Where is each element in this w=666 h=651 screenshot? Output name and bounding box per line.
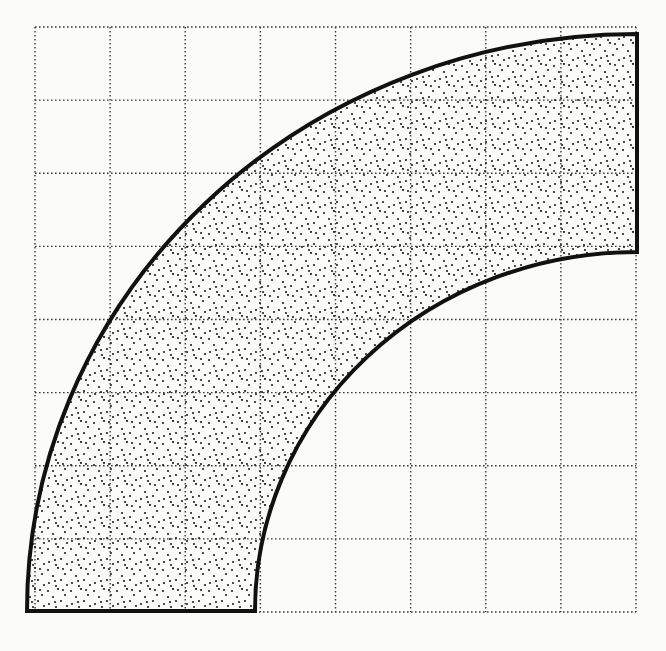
quarter-annulus-shape — [27, 34, 637, 611]
annulus-grid-figure — [0, 0, 666, 651]
